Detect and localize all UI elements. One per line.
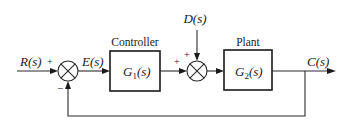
controller-title: Controller xyxy=(111,36,158,48)
sum2-plus-sign-left: + xyxy=(174,56,180,67)
input-label: R(s) xyxy=(19,54,42,69)
arrow-head-icon xyxy=(194,53,200,61)
arrow-head-icon xyxy=(50,68,58,74)
summing-junction-1 xyxy=(58,61,78,81)
output-label: C(s) xyxy=(307,54,329,69)
arrow-head-icon xyxy=(65,81,71,89)
sum1-plus-sign: + xyxy=(47,56,53,67)
disturbance-label: D(s) xyxy=(182,11,206,26)
plant-title: Plant xyxy=(236,36,260,48)
plant-tf: G2(s) xyxy=(235,64,263,81)
controller-tf: G1(s) xyxy=(123,64,151,81)
arrow-head-icon xyxy=(179,68,187,74)
sum1-minus-sign: − xyxy=(57,82,63,94)
error-label: E(s) xyxy=(81,54,104,69)
arrow-head-icon xyxy=(216,68,224,74)
sum2-plus-sign-top: + xyxy=(184,49,190,60)
block-diagram: R(s) + − E(s) Controller G1(s) + D(s) + … xyxy=(0,0,353,127)
summing-junction-2 xyxy=(187,61,207,81)
